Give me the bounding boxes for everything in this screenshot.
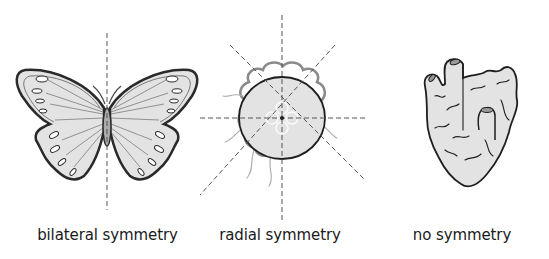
sponge-figure	[375, 0, 549, 225]
radial-center-point	[280, 116, 284, 120]
butterfly-left-wing	[17, 70, 104, 180]
butterfly-figure	[0, 0, 215, 225]
panel-none: no symmetry	[375, 0, 549, 259]
label-no-symmetry: no symmetry	[375, 226, 549, 244]
jellyfish-figure	[185, 0, 375, 225]
label-bilateral-symmetry: bilateral symmetry	[0, 226, 215, 244]
sponge-osculum-3	[481, 108, 493, 113]
panel-bilateral: bilateral symmetry	[0, 0, 215, 259]
panel-radial: radial symmetry	[185, 0, 375, 259]
label-radial-symmetry: radial symmetry	[185, 226, 375, 244]
sponge-body	[425, 59, 518, 186]
